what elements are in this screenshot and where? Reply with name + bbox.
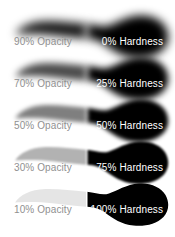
brush-stroke-row: 10% Opacity100% Hardness <box>0 162 175 228</box>
opacity-label: 10% Opacity <box>14 204 72 215</box>
brush-stroke-graphic <box>0 162 175 228</box>
hardness-label: 100% Hardness <box>91 204 163 215</box>
brush-opacity-hardness-figure: 90% Opacity0% Hardness70% Opacity25% Har… <box>0 0 175 237</box>
